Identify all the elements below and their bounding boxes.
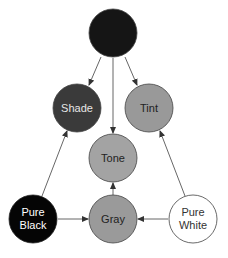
- node-label-pure-black-line2: Black: [20, 219, 47, 231]
- edge-black-to-shade: [42, 131, 67, 196]
- node-label-tone: Tone: [101, 152, 125, 164]
- edge-white-to-tint: [160, 131, 185, 196]
- node-shade: Shade: [53, 84, 101, 132]
- node-label-gray: Gray: [101, 213, 125, 225]
- node-hue: [89, 9, 137, 57]
- node-tone: Tone: [89, 134, 137, 182]
- color-relationships-diagram: Shade Tint Tone Gray Pure Black Pure Whi…: [0, 0, 228, 258]
- node-gray: Gray: [89, 195, 137, 243]
- node-label-pure-white-line2: White: [179, 219, 207, 231]
- edge-hue-to-shade: [89, 57, 101, 85]
- node-tint: Tint: [125, 84, 173, 132]
- node-pure-white: Pure White: [169, 195, 217, 243]
- node-label-pure-white-line1: Pure: [181, 206, 204, 218]
- edge-hue-to-tint: [125, 57, 137, 85]
- node-pure-black: Pure Black: [9, 195, 57, 243]
- node-label-tint: Tint: [140, 102, 158, 114]
- node-label-shade: Shade: [61, 102, 93, 114]
- node-label-pure-black-line1: Pure: [21, 206, 44, 218]
